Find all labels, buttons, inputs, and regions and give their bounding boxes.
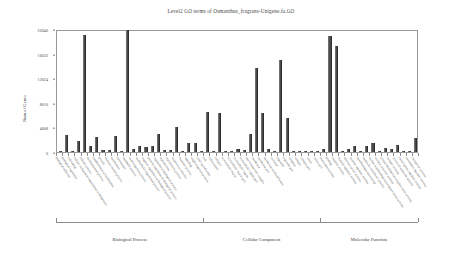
group-rule xyxy=(56,222,203,223)
bar xyxy=(169,150,172,152)
bar xyxy=(243,150,246,152)
group-label: Biological Process xyxy=(112,237,146,242)
bar xyxy=(101,150,104,152)
bar xyxy=(224,151,227,152)
bar xyxy=(322,149,325,152)
bar xyxy=(378,151,381,152)
bar xyxy=(126,30,129,152)
bar xyxy=(218,113,221,152)
bar xyxy=(310,151,313,152)
y-tick-label: 16032 xyxy=(4,52,48,57)
bar xyxy=(408,151,411,152)
bar xyxy=(181,151,184,152)
bar xyxy=(138,146,141,152)
chart-root: Level2 GO terms of Osmanthus_fragrans-Un… xyxy=(0,0,462,258)
bar xyxy=(341,151,344,152)
group-rule xyxy=(203,222,320,223)
bar xyxy=(249,134,252,152)
group-rule xyxy=(320,222,418,223)
group-tick xyxy=(320,218,321,222)
chart-title: Level2 GO terms of Osmanthus_fragrans-Un… xyxy=(0,8,462,14)
bar xyxy=(59,151,62,152)
bar xyxy=(212,151,215,152)
bar xyxy=(108,150,111,152)
y-tick-mark xyxy=(53,128,55,129)
bar xyxy=(316,151,319,152)
bar xyxy=(230,151,233,152)
bar xyxy=(144,147,147,152)
bar xyxy=(267,149,270,152)
bar xyxy=(77,141,80,152)
y-axis-title: Num of Genes xyxy=(22,95,27,122)
bar xyxy=(298,151,301,152)
group-brackets xyxy=(0,222,462,236)
bar xyxy=(236,149,239,152)
bar xyxy=(132,149,135,152)
bar xyxy=(353,146,356,152)
bar xyxy=(273,151,276,152)
y-tick-label: 20040 xyxy=(4,28,48,33)
y-tick-mark xyxy=(53,54,55,55)
bar xyxy=(390,149,393,152)
group-tick xyxy=(203,218,204,222)
y-tick-label: 4008 xyxy=(4,126,48,131)
bar xyxy=(194,143,197,152)
y-tick-mark xyxy=(53,79,55,80)
bar xyxy=(365,146,368,152)
x-axis-label: cell xyxy=(202,156,208,162)
bar xyxy=(89,146,92,152)
y-tick-label: 12024 xyxy=(4,77,48,82)
group-label: Molecular Function xyxy=(351,237,387,242)
bar xyxy=(328,36,331,152)
group-tick xyxy=(56,218,57,222)
plot-area xyxy=(56,30,418,153)
bar xyxy=(279,60,282,152)
y-tick-mark xyxy=(53,103,55,104)
bar xyxy=(304,151,307,152)
bar xyxy=(65,135,68,152)
bar xyxy=(95,137,98,152)
x-axis-labels: biological adhesionbiological regulation… xyxy=(0,156,462,218)
bar xyxy=(157,134,160,152)
bar xyxy=(120,151,123,152)
bar xyxy=(163,150,166,152)
bar xyxy=(200,151,203,152)
bar xyxy=(286,118,289,152)
bar xyxy=(114,136,117,152)
bar xyxy=(371,143,374,152)
y-tick-mark xyxy=(53,153,55,154)
bar xyxy=(187,143,190,152)
bar xyxy=(206,112,209,152)
group-tick xyxy=(418,218,419,222)
group-label: Cellular Component xyxy=(243,237,280,242)
bar xyxy=(359,151,362,152)
bar xyxy=(335,46,338,152)
bar xyxy=(347,149,350,152)
bar xyxy=(384,148,387,152)
bar xyxy=(414,138,417,152)
group-labels: Biological ProcessCellular ComponentMole… xyxy=(0,237,462,249)
bar xyxy=(151,146,154,152)
bar xyxy=(402,151,405,152)
y-tick-mark xyxy=(53,30,55,31)
bar xyxy=(396,145,399,152)
y-tick-label: 8016 xyxy=(4,101,48,106)
bar xyxy=(255,68,258,152)
bar xyxy=(71,151,74,152)
bar xyxy=(292,151,295,152)
bar xyxy=(83,35,86,152)
y-tick-label: 0 xyxy=(4,151,48,156)
y-axis: Num of Genes 040088016120241603220040 xyxy=(0,30,56,153)
bar xyxy=(261,113,264,152)
bar xyxy=(175,127,178,152)
bar-series xyxy=(57,31,417,152)
